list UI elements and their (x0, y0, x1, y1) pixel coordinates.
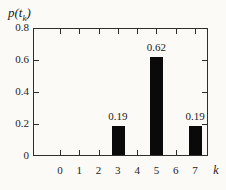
y-tick-left (34, 60, 39, 61)
x-tick-label: 5 (148, 164, 164, 177)
x-tick-bottom (99, 150, 100, 155)
x-tick-bottom (137, 150, 138, 155)
x-tick-label: 3 (110, 164, 126, 177)
bar (189, 126, 202, 155)
x-tick-label: 0 (52, 164, 68, 177)
bar-value-label: 0.19 (102, 110, 134, 123)
x-tick-top (60, 29, 61, 34)
y-axis-title-close: ) (26, 5, 30, 20)
x-tick-top (99, 29, 100, 34)
bar (112, 126, 125, 155)
y-tick-right (202, 60, 207, 61)
y-axis-title: p(tk) (8, 5, 31, 23)
x-tick-bottom (176, 150, 177, 155)
x-tick-top (195, 29, 196, 34)
y-tick-label: 0.6 (5, 53, 29, 66)
x-tick-top (118, 29, 119, 34)
y-tick-right (202, 124, 207, 125)
bar-value-label: 0.19 (179, 110, 211, 123)
x-tick-top (176, 29, 177, 34)
y-tick-right (202, 92, 207, 93)
bar-chart-figure: p(tk) k 0123456700.20.40.60.80.190.620.1… (0, 0, 226, 190)
x-tick-label: 1 (71, 164, 87, 177)
bar-value-label: 0.62 (140, 41, 172, 54)
y-tick-label: 0.2 (5, 117, 29, 130)
y-tick-label: 0.8 (5, 21, 29, 34)
y-axis-title-open: p( (8, 5, 19, 20)
y-tick-left (34, 92, 39, 93)
y-tick-label: 0 (5, 149, 29, 162)
y-tick-left (34, 124, 39, 125)
x-axis-title: k (208, 164, 224, 177)
bar (150, 57, 163, 155)
y-tick-label: 0.4 (5, 85, 29, 98)
x-tick-label: 4 (129, 164, 145, 177)
x-tick-label: 2 (91, 164, 107, 177)
x-tick-label: 7 (187, 164, 203, 177)
x-tick-bottom (60, 150, 61, 155)
x-tick-top (79, 29, 80, 34)
x-tick-top (156, 29, 157, 34)
x-tick-top (137, 29, 138, 34)
x-tick-bottom (79, 150, 80, 155)
x-tick-label: 6 (168, 164, 184, 177)
